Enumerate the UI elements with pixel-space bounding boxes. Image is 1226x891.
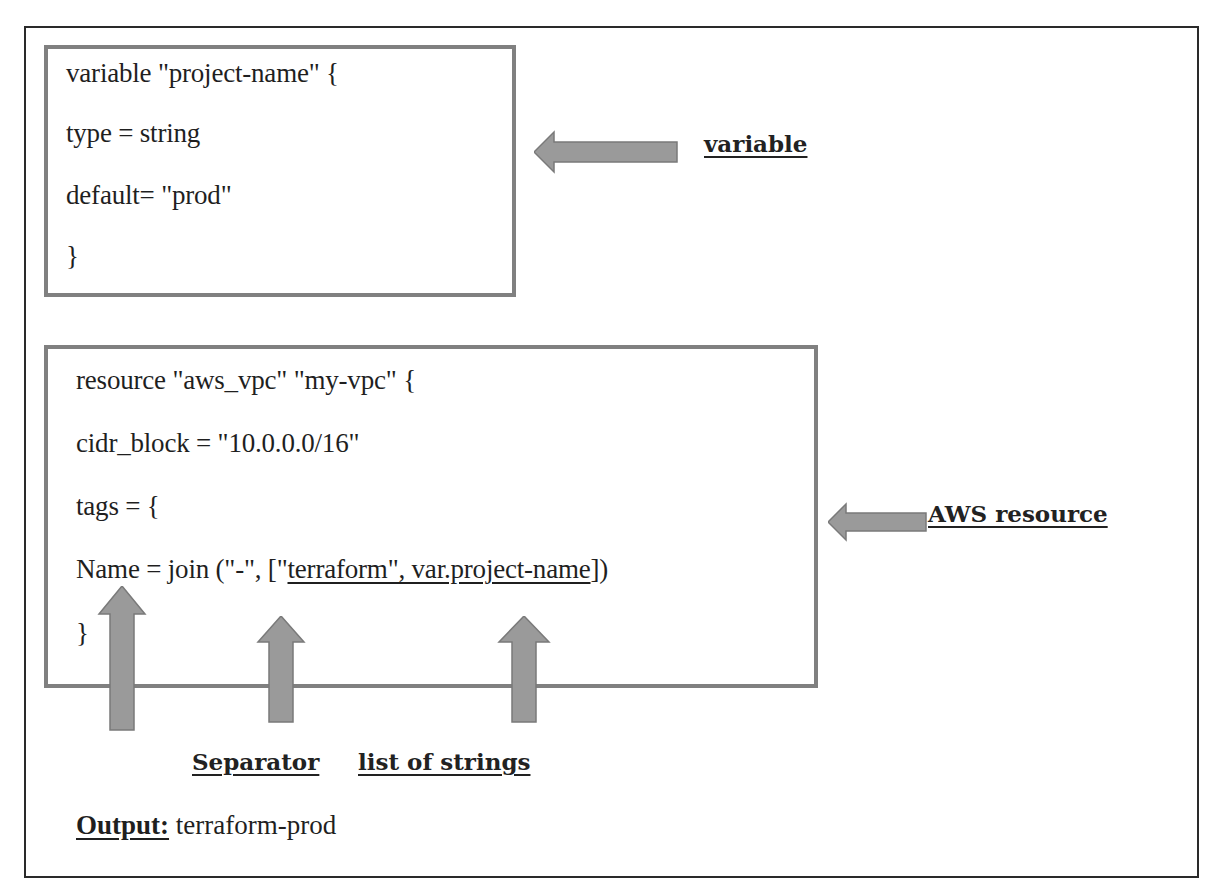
annotation-variable: variable [704, 130, 807, 157]
annotation-list-of-strings: list of strings [358, 748, 530, 775]
code-line: } [66, 241, 79, 272]
annotation-separator: Separator [192, 748, 319, 775]
code-line: variable "project-name" { [66, 58, 339, 89]
code-line: cidr_block = "10.0.0.0/16" [76, 428, 359, 459]
code-line: resource "aws_vpc" "my-vpc" { [76, 365, 416, 396]
code-line: tags = { [76, 491, 160, 522]
join-list-args: terraform", var.project-name [288, 554, 591, 584]
arrow-up-icon [97, 586, 147, 732]
join-prefix: Name = join ("-", [" [76, 554, 288, 584]
output-label: Output: [76, 810, 169, 840]
arrow-up-icon [497, 616, 551, 724]
code-line: type = string [66, 118, 200, 149]
output-value: terraform-prod [169, 810, 336, 840]
arrow-left-icon [534, 130, 679, 174]
arrow-left-icon [828, 502, 928, 542]
code-line: default= "prod" [66, 180, 231, 211]
annotation-aws-resource: AWS resource [928, 500, 1108, 527]
arrow-up-icon [256, 616, 306, 724]
join-suffix: ]) [591, 554, 609, 584]
output-line: Output: terraform-prod [76, 810, 336, 841]
code-line: } [76, 618, 89, 649]
code-line-join: Name = join ("-", ["terraform", var.proj… [76, 554, 608, 585]
resource-code-box [44, 345, 818, 688]
